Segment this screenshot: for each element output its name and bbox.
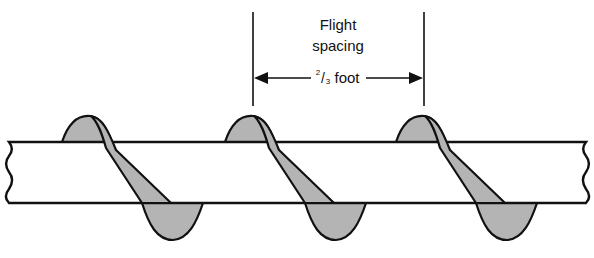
arrowhead-right: [409, 72, 423, 84]
flight-lower-lobe: [476, 203, 537, 240]
arrowhead-left: [254, 72, 268, 84]
label-flight: Flight: [320, 16, 358, 33]
flight-lower-lobe: [305, 203, 366, 240]
fraction-numerator: 2: [316, 68, 321, 77]
dimension-unit: foot: [334, 69, 360, 86]
fraction-slash: /: [321, 70, 325, 86]
label-spacing: spacing: [312, 37, 364, 54]
screw-conveyor-diagram: Flight spacing 2 / 3 foot: [0, 0, 594, 258]
fraction-denominator: 3: [326, 77, 331, 86]
flight-lower-lobe: [142, 203, 203, 240]
